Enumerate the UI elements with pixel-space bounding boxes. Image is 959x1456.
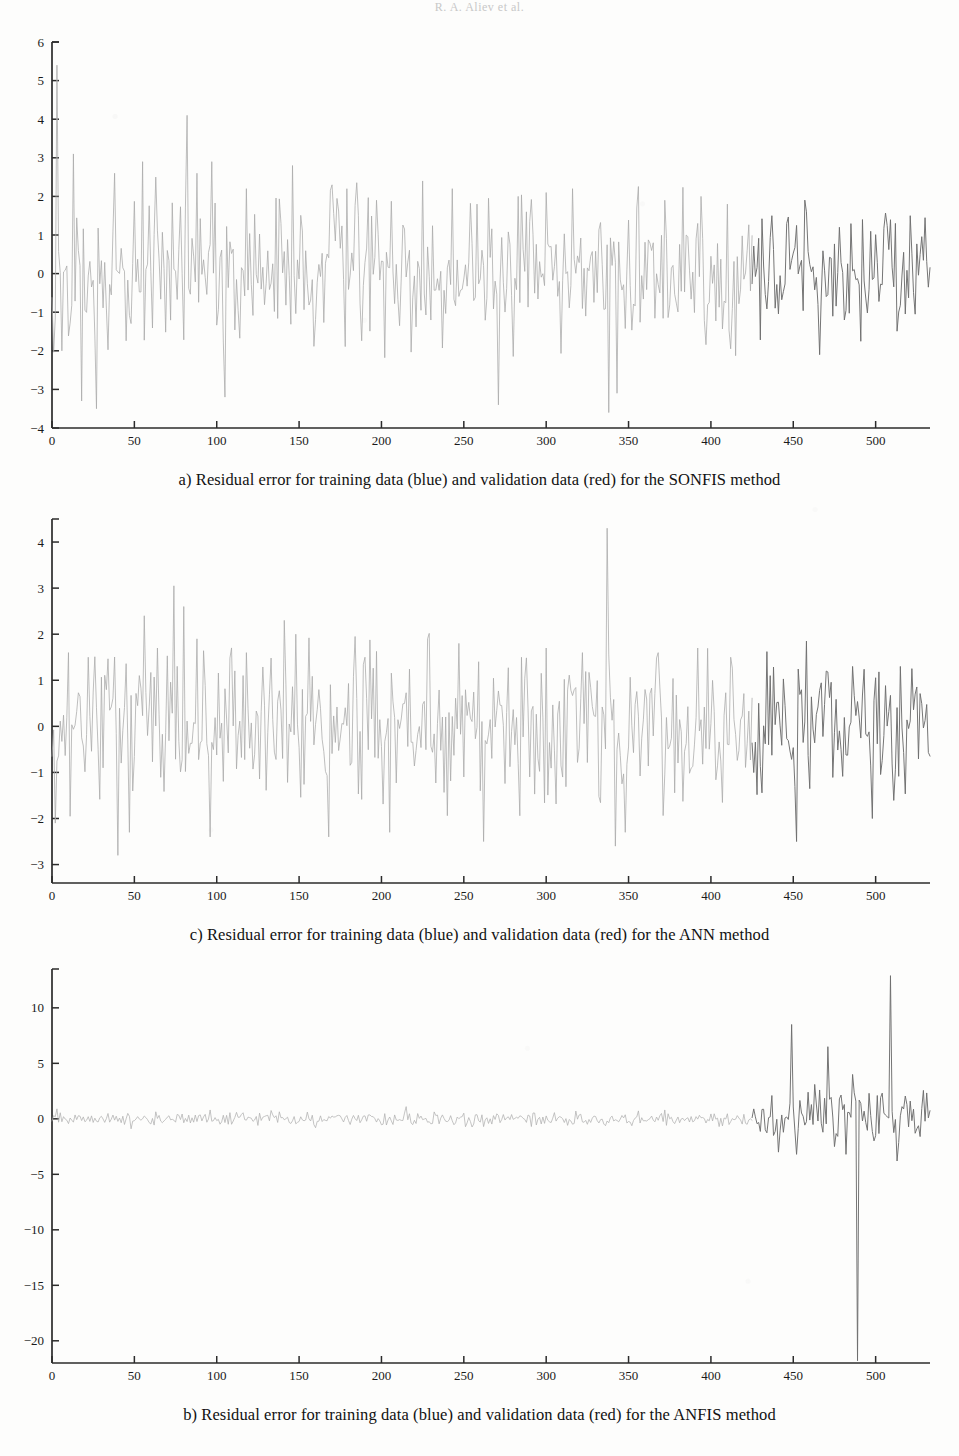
svg-text:3: 3: [38, 150, 45, 165]
series-training: [52, 65, 752, 412]
svg-text:5: 5: [38, 73, 45, 88]
svg-text:1: 1: [38, 673, 45, 688]
svg-text:350: 350: [619, 888, 639, 903]
svg-text:250: 250: [454, 888, 474, 903]
svg-text:400: 400: [701, 888, 721, 903]
svg-text:3: 3: [38, 581, 45, 596]
svg-text:−5: −5: [30, 1167, 44, 1182]
svg-text:0: 0: [49, 1368, 56, 1383]
figure-panel-anfis: −20−15−10−505100501001502002503003504004…: [0, 955, 959, 1425]
figure-panel-sonfis: −4−3−2−101234560501001502002503003504004…: [0, 30, 959, 490]
svg-text:6: 6: [38, 35, 45, 50]
svg-text:5: 5: [38, 1056, 45, 1071]
svg-text:−3: −3: [30, 857, 44, 872]
svg-text:−10: −10: [24, 1222, 44, 1237]
svg-text:−2: −2: [30, 343, 44, 358]
svg-text:150: 150: [289, 1368, 309, 1383]
svg-text:4: 4: [38, 112, 45, 127]
svg-text:500: 500: [866, 433, 886, 448]
svg-text:100: 100: [207, 1368, 227, 1383]
series-validation: [752, 200, 930, 355]
svg-text:100: 100: [207, 433, 227, 448]
residual-plot-anfis: −20−15−10−505100501001502002503003504004…: [0, 955, 959, 1405]
svg-text:1: 1: [38, 228, 45, 243]
svg-text:350: 350: [619, 433, 639, 448]
svg-text:300: 300: [536, 888, 556, 903]
series-validation: [752, 976, 930, 1361]
svg-text:4: 4: [38, 535, 45, 550]
svg-text:50: 50: [128, 888, 141, 903]
svg-text:400: 400: [701, 433, 721, 448]
svg-text:200: 200: [372, 888, 392, 903]
panel-caption-anfis: b) Residual error for training data (blu…: [0, 1405, 959, 1425]
figure-page: R. A. Aliev et al. −4−3−2−10123456050100…: [0, 0, 959, 1456]
svg-text:400: 400: [701, 1368, 721, 1383]
svg-text:−20: −20: [24, 1333, 44, 1348]
series-training: [52, 528, 752, 855]
series-training: [52, 1107, 752, 1129]
svg-text:−3: −3: [30, 382, 44, 397]
svg-text:500: 500: [866, 888, 886, 903]
svg-text:200: 200: [372, 1368, 392, 1383]
svg-text:−4: −4: [30, 421, 44, 436]
svg-text:150: 150: [289, 433, 309, 448]
svg-text:−2: −2: [30, 811, 44, 826]
svg-text:450: 450: [784, 888, 804, 903]
plot-area-sonfis: −4−3−2−101234560501001502002503003504004…: [0, 30, 959, 470]
svg-text:2: 2: [38, 189, 45, 204]
svg-text:150: 150: [289, 888, 309, 903]
svg-text:500: 500: [866, 1368, 886, 1383]
svg-text:250: 250: [454, 433, 474, 448]
plot-area-ann: −3−2−10123405010015020025030035040045050…: [0, 505, 959, 925]
svg-text:2: 2: [38, 627, 45, 642]
svg-text:350: 350: [619, 1368, 639, 1383]
residual-plot-ann: −3−2−10123405010015020025030035040045050…: [0, 505, 959, 925]
svg-text:−15: −15: [24, 1278, 44, 1293]
svg-text:300: 300: [536, 433, 556, 448]
svg-text:50: 50: [128, 1368, 141, 1383]
svg-text:200: 200: [372, 433, 392, 448]
svg-text:0: 0: [38, 719, 45, 734]
svg-text:0: 0: [49, 888, 56, 903]
panel-caption-ann: c) Residual error for training data (blu…: [0, 925, 959, 945]
svg-text:100: 100: [207, 888, 227, 903]
svg-text:−1: −1: [30, 765, 44, 780]
series-validation: [752, 641, 930, 841]
svg-text:10: 10: [31, 1000, 44, 1015]
plot-area-anfis: −20−15−10−505100501001502002503003504004…: [0, 955, 959, 1405]
svg-text:450: 450: [784, 433, 804, 448]
svg-text:−1: −1: [30, 305, 44, 320]
svg-text:0: 0: [38, 1111, 45, 1126]
running-head: R. A. Aliev et al.: [0, 0, 959, 15]
svg-text:0: 0: [49, 433, 56, 448]
svg-text:50: 50: [128, 433, 141, 448]
svg-text:250: 250: [454, 1368, 474, 1383]
residual-plot-sonfis: −4−3−2−101234560501001502002503003504004…: [0, 30, 959, 470]
svg-text:300: 300: [536, 1368, 556, 1383]
svg-text:450: 450: [784, 1368, 804, 1383]
panel-caption-sonfis: a) Residual error for training data (blu…: [0, 470, 959, 490]
figure-panel-ann: −3−2−10123405010015020025030035040045050…: [0, 505, 959, 945]
svg-text:0: 0: [38, 266, 45, 281]
